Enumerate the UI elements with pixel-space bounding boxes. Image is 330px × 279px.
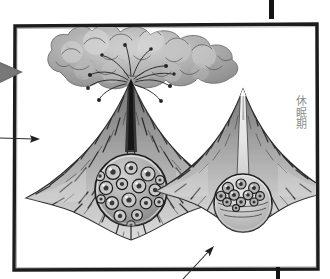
bottom-edge-tick-mark — [276, 267, 280, 279]
dormant-stage-label: 休眠期 — [294, 95, 306, 130]
illustration-canvas: 休眠期 — [0, 0, 330, 279]
volcano-illustration-svg — [0, 0, 330, 279]
top-edge-tick-mark — [269, 0, 274, 19]
